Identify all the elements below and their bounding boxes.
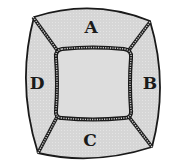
- region-label-d: D: [30, 73, 45, 93]
- center-region: [56, 48, 131, 120]
- region-label-b: B: [143, 73, 157, 93]
- region-label-c: C: [83, 130, 97, 150]
- region-diagram: A B C D: [0, 0, 170, 165]
- region-label-a: A: [83, 17, 98, 37]
